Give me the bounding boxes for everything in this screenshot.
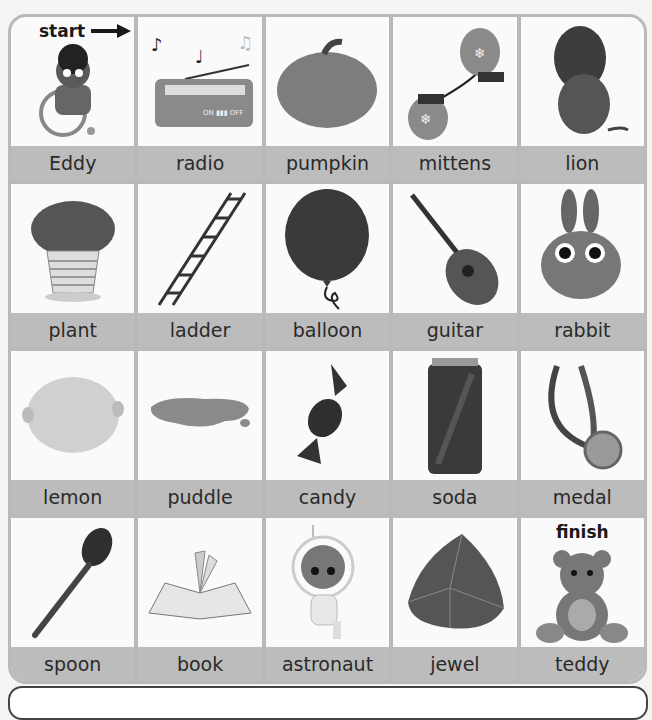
spoon-icon [23,523,123,643]
astronaut-icon [277,521,377,645]
cell-candy[interactable]: candy [266,351,389,514]
cell-lemon[interactable]: lemon [11,351,134,514]
plant-icon [23,189,123,309]
cell-label: rabbit [521,313,644,347]
cell-mittens[interactable]: ❄ ❄ mittens [393,17,516,180]
teddy-bear-icon [532,545,632,645]
soda-can-icon [420,354,490,478]
cell-plant[interactable]: plant [11,184,134,347]
cell-label: candy [266,480,389,514]
cell-label: ladder [138,313,261,347]
answer-box [8,686,648,720]
cell-astronaut[interactable]: astronaut [266,518,389,681]
candy-icon [277,356,377,476]
puddle-icon [145,391,255,441]
cell-label: medal [521,480,644,514]
cell-label: Eddy [11,146,134,180]
cell-medal[interactable]: medal [521,351,644,514]
cell-puddle[interactable]: puddle [138,351,261,514]
cell-soda[interactable]: soda [393,351,516,514]
cell-guitar[interactable]: guitar [393,184,516,347]
svg-text:ON ▮▮▮ OFF: ON ▮▮▮ OFF [203,109,243,117]
cell-label: balloon [266,313,389,347]
boy-wheelchair-icon [33,43,113,143]
svg-text:♩: ♩ [195,46,204,67]
svg-text:♫: ♫ [237,32,253,53]
cell-ladder[interactable]: ladder [138,184,261,347]
cell-label: puddle [138,480,261,514]
cell-label: plant [11,313,134,347]
cell-label: mittens [393,146,516,180]
ladder-icon [145,189,255,309]
cell-label: lemon [11,480,134,514]
svg-text:❄: ❄ [474,45,486,61]
cell-label: soda [393,480,516,514]
cell-label: radio [138,146,261,180]
cell-label: lion [521,146,644,180]
cell-pumpkin[interactable]: pumpkin [266,17,389,180]
lion-icon [532,22,632,142]
cell-label: guitar [393,313,516,347]
svg-text:❄: ❄ [420,111,432,127]
cell-lion[interactable]: lion [521,17,644,180]
cell-balloon[interactable]: balloon [266,184,389,347]
cell-radio[interactable]: ♪ ♩ ♫ ON ▮▮▮ OFF radio [138,17,261,180]
cell-teddy[interactable]: finish teddy [521,518,644,681]
cell-rabbit[interactable]: rabbit [521,184,644,347]
cell-spoon[interactable]: spoon [11,518,134,681]
medal-icon [527,356,637,476]
radio-icon: ♪ ♩ ♫ ON ▮▮▮ OFF [145,27,255,137]
cell-label: astronaut [266,647,389,681]
cell-label: pumpkin [266,146,389,180]
lemon-icon [18,371,128,461]
cell-label: teddy [521,647,644,681]
word-board: start Eddy ♪ ♩ ♫ [8,14,647,684]
cell-label: jewel [393,647,516,681]
mittens-icon: ❄ ❄ [400,22,510,142]
cell-label: book [138,647,261,681]
finish-label: finish [521,522,644,542]
cell-book[interactable]: book [138,518,261,681]
guitar-icon [400,189,510,309]
start-label: start [39,21,85,41]
arrow-right-icon [91,24,131,38]
word-grid: start Eddy ♪ ♩ ♫ [11,17,644,681]
cell-label: spoon [11,647,134,681]
cell-eddy[interactable]: start Eddy [11,17,134,180]
pumpkin-icon [272,32,382,132]
balloon-icon [277,187,377,311]
cell-jewel[interactable]: jewel [393,518,516,681]
jewel-icon [400,528,510,638]
book-icon [145,543,255,623]
svg-text:♪: ♪ [151,34,163,55]
rabbit-icon [527,189,637,309]
